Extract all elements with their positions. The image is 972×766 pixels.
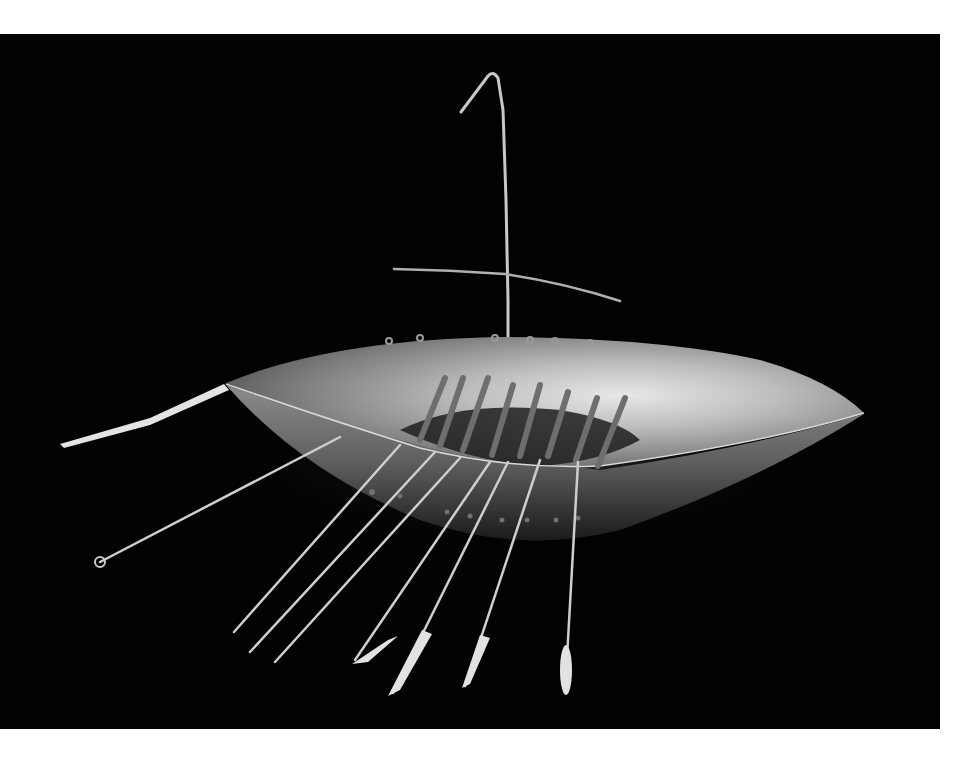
photograph: Photograph of a small hammered gold boat… [0,34,940,729]
boat-model-illustration [0,34,940,729]
mast [461,73,508,345]
steering-oar [60,384,229,448]
